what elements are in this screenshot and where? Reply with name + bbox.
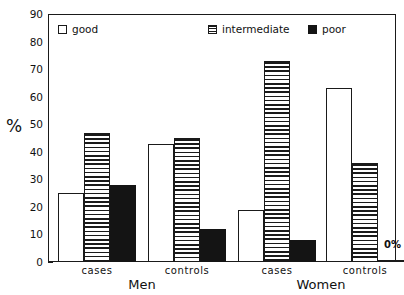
bar-women-cases-good [238, 210, 264, 262]
y-axis-tick-label: 40 [17, 147, 43, 158]
legend-swatch-poor-icon [308, 25, 317, 34]
bar-men-controls-good [148, 144, 174, 262]
y-axis-tick-label: 90 [17, 9, 43, 20]
legend-swatch-good-icon [58, 25, 67, 34]
x-axis-category-label: cases [237, 265, 317, 276]
legend-label: intermediate [222, 24, 290, 35]
chart-legend: goodintermediatepoor [48, 24, 396, 42]
x-axis-category-label: cases [57, 265, 137, 276]
bar-men-cases-poor [110, 185, 136, 262]
bar-men-cases-good [58, 193, 84, 262]
bar-men-controls-poor [200, 229, 226, 262]
y-axis-tick [48, 262, 53, 263]
y-axis-tick-label: 10 [17, 229, 43, 240]
y-axis-tick-label: 30 [17, 174, 43, 185]
bar-men-controls-intermediate [174, 138, 200, 262]
x-axis-category-label: controls [147, 265, 227, 276]
zero-value-annotation: 0% [384, 240, 401, 250]
y-axis-tick-label: 60 [17, 92, 43, 103]
bars-layer: 0% [48, 14, 396, 262]
x-axis-group-label-women: Women [276, 278, 366, 292]
bar-women-cases-poor [290, 240, 316, 262]
x-axis-category-label: controls [325, 265, 404, 276]
legend-item-good[interactable]: good [58, 24, 98, 35]
bar-women-cases-intermediate [264, 61, 290, 262]
bar-men-cases-intermediate [84, 133, 110, 263]
legend-item-intermediate[interactable]: intermediate [208, 24, 290, 35]
y-axis-tick-label: 0 [17, 257, 43, 268]
y-axis-tick-label: 80 [17, 37, 43, 48]
bar-women-controls-good [326, 88, 352, 262]
legend-label: good [72, 24, 98, 35]
y-axis-tick-label: 20 [17, 202, 43, 213]
bar-women-controls-poor [378, 260, 404, 262]
y-axis-tick-label: 50 [17, 119, 43, 130]
bar-chart: % 0102030405060708090 0% goodintermediat… [0, 0, 404, 295]
legend-swatch-intermediate-icon [208, 25, 217, 34]
legend-label: poor [322, 24, 346, 35]
y-axis-tick-label: 70 [17, 64, 43, 75]
legend-item-poor[interactable]: poor [308, 24, 346, 35]
bar-women-controls-intermediate [352, 163, 378, 262]
x-axis-group-label-men: Men [97, 278, 187, 292]
